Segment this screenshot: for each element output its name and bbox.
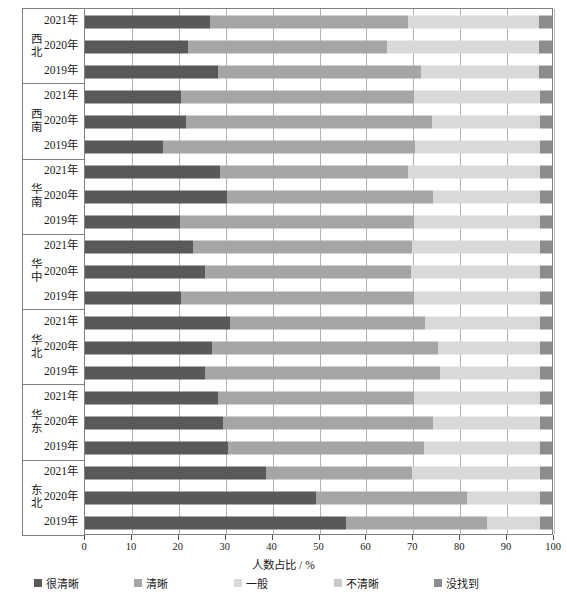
bar-segment-一般[interactable] bbox=[408, 15, 539, 28]
stacked-bar[interactable] bbox=[85, 366, 552, 379]
bar-segment-清晰[interactable] bbox=[220, 166, 407, 179]
stacked-bar[interactable] bbox=[85, 191, 552, 204]
stacked-bar[interactable] bbox=[85, 341, 552, 354]
bar-segment-没找到[interactable] bbox=[540, 241, 552, 254]
bar-segment-没找到[interactable] bbox=[540, 291, 552, 304]
legend-item-一般[interactable]: 一般 bbox=[234, 575, 334, 591]
stacked-bar[interactable] bbox=[85, 316, 552, 329]
stacked-bar[interactable] bbox=[85, 141, 552, 154]
bar-segment-一般[interactable] bbox=[414, 216, 540, 229]
stacked-bar[interactable] bbox=[85, 65, 552, 78]
bar-segment-很清晰[interactable] bbox=[85, 417, 223, 430]
stacked-bar[interactable] bbox=[85, 417, 552, 430]
bar-segment-一般[interactable] bbox=[433, 417, 539, 430]
bar-segment-清晰[interactable] bbox=[163, 141, 416, 154]
bar-segment-很清晰[interactable] bbox=[85, 90, 181, 103]
bar-segment-清晰[interactable] bbox=[230, 316, 425, 329]
bar-segment-没找到[interactable] bbox=[540, 266, 552, 279]
bar-segment-很清晰[interactable] bbox=[85, 341, 212, 354]
bar-segment-很清晰[interactable] bbox=[85, 40, 188, 53]
bar-segment-没找到[interactable] bbox=[540, 442, 552, 455]
bar-segment-清晰[interactable] bbox=[180, 216, 414, 229]
bar-segment-很清晰[interactable] bbox=[85, 65, 218, 78]
bar-segment-没找到[interactable] bbox=[540, 166, 552, 179]
bar-segment-很清晰[interactable] bbox=[85, 391, 218, 404]
bar-segment-一般[interactable] bbox=[414, 391, 540, 404]
stacked-bar[interactable] bbox=[85, 40, 552, 53]
bar-segment-很清晰[interactable] bbox=[85, 15, 210, 28]
bar-segment-很清晰[interactable] bbox=[85, 442, 228, 455]
stacked-bar[interactable] bbox=[85, 241, 552, 254]
bar-segment-清晰[interactable] bbox=[227, 191, 433, 204]
bar-segment-很清晰[interactable] bbox=[85, 366, 205, 379]
bar-segment-没找到[interactable] bbox=[540, 115, 552, 128]
bar-segment-没找到[interactable] bbox=[540, 90, 552, 103]
bar-segment-一般[interactable] bbox=[414, 291, 540, 304]
bar-segment-没找到[interactable] bbox=[540, 517, 552, 530]
bar-segment-清晰[interactable] bbox=[223, 417, 433, 430]
bar-segment-清晰[interactable] bbox=[181, 291, 414, 304]
bar-segment-一般[interactable] bbox=[432, 115, 540, 128]
bar-segment-一般[interactable] bbox=[408, 166, 540, 179]
stacked-bar[interactable] bbox=[85, 266, 552, 279]
bar-segment-一般[interactable] bbox=[487, 517, 540, 530]
bar-segment-很清晰[interactable] bbox=[85, 216, 180, 229]
bar-segment-清晰[interactable] bbox=[188, 40, 387, 53]
bar-segment-没找到[interactable] bbox=[539, 65, 552, 78]
bar-segment-很清晰[interactable] bbox=[85, 141, 163, 154]
stacked-bar[interactable] bbox=[85, 467, 552, 480]
legend-item-不清晰[interactable]: 不清晰 bbox=[334, 575, 434, 591]
bar-segment-一般[interactable] bbox=[412, 467, 540, 480]
bar-segment-清晰[interactable] bbox=[316, 492, 467, 505]
stacked-bar[interactable] bbox=[85, 442, 552, 455]
bar-segment-一般[interactable] bbox=[412, 241, 540, 254]
bar-segment-一般[interactable] bbox=[421, 65, 539, 78]
stacked-bar[interactable] bbox=[85, 492, 552, 505]
stacked-bar[interactable] bbox=[85, 15, 552, 28]
bar-segment-清晰[interactable] bbox=[228, 442, 423, 455]
bar-segment-没找到[interactable] bbox=[540, 191, 552, 204]
bar-segment-没找到[interactable] bbox=[539, 40, 552, 53]
bar-segment-很清晰[interactable] bbox=[85, 191, 227, 204]
bar-segment-没找到[interactable] bbox=[540, 467, 552, 480]
bar-segment-清晰[interactable] bbox=[212, 341, 438, 354]
legend-item-没找到[interactable]: 没找到 bbox=[434, 575, 534, 591]
bar-segment-很清晰[interactable] bbox=[85, 166, 220, 179]
bar-segment-没找到[interactable] bbox=[540, 141, 552, 154]
legend-item-很清晰[interactable]: 很清晰 bbox=[34, 575, 134, 591]
bar-segment-没找到[interactable] bbox=[540, 366, 552, 379]
bar-segment-一般[interactable] bbox=[433, 191, 539, 204]
bar-segment-清晰[interactable] bbox=[346, 517, 487, 530]
bar-segment-没找到[interactable] bbox=[540, 341, 552, 354]
bar-segment-清晰[interactable] bbox=[181, 90, 414, 103]
bar-segment-很清晰[interactable] bbox=[85, 266, 205, 279]
bar-segment-一般[interactable] bbox=[424, 442, 540, 455]
bar-segment-清晰[interactable] bbox=[205, 266, 410, 279]
bar-segment-一般[interactable] bbox=[411, 266, 540, 279]
bar-segment-很清晰[interactable] bbox=[85, 241, 193, 254]
bar-segment-很清晰[interactable] bbox=[85, 517, 346, 530]
bar-segment-清晰[interactable] bbox=[186, 115, 432, 128]
bar-segment-清晰[interactable] bbox=[266, 467, 412, 480]
bar-segment-清晰[interactable] bbox=[193, 241, 412, 254]
bar-segment-没找到[interactable] bbox=[540, 492, 552, 505]
stacked-bar[interactable] bbox=[85, 115, 552, 128]
bar-segment-一般[interactable] bbox=[467, 492, 540, 505]
bar-segment-没找到[interactable] bbox=[540, 216, 552, 229]
bar-segment-一般[interactable] bbox=[438, 341, 540, 354]
bar-segment-很清晰[interactable] bbox=[85, 492, 316, 505]
bar-segment-没找到[interactable] bbox=[540, 391, 552, 404]
bar-segment-一般[interactable] bbox=[415, 141, 540, 154]
stacked-bar[interactable] bbox=[85, 166, 552, 179]
bar-segment-一般[interactable] bbox=[414, 90, 540, 103]
bar-segment-没找到[interactable] bbox=[540, 417, 552, 430]
legend-item-清晰[interactable]: 清晰 bbox=[134, 575, 234, 591]
bar-segment-一般[interactable] bbox=[387, 40, 539, 53]
stacked-bar[interactable] bbox=[85, 291, 552, 304]
stacked-bar[interactable] bbox=[85, 90, 552, 103]
bar-segment-一般[interactable] bbox=[440, 366, 540, 379]
bar-segment-很清晰[interactable] bbox=[85, 115, 186, 128]
bar-segment-很清晰[interactable] bbox=[85, 316, 230, 329]
bar-segment-清晰[interactable] bbox=[218, 391, 414, 404]
bar-segment-清晰[interactable] bbox=[218, 65, 422, 78]
